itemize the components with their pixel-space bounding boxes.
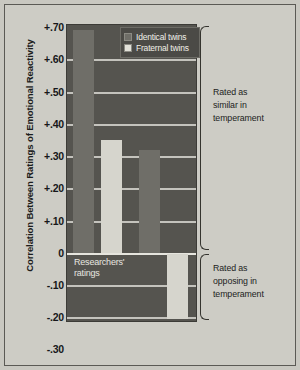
group-label-parents-line1: Parents': [131, 320, 162, 322]
y-tick-040: +.40: [26, 118, 64, 130]
y-tick-neg020: -.20: [26, 311, 64, 323]
group-label-researchers: Researchers' ratings: [74, 257, 124, 280]
group-label-parents: Parents' ratings: [131, 320, 162, 322]
y-tick-020: +.20: [26, 182, 64, 194]
annotation-similar-line1: Rated as: [213, 86, 264, 99]
y-tick-neg010: -.10: [26, 279, 64, 291]
y-axis-tick-labels: +.70 +.60 +.50 +.40 +.30 +.20 +.10 0 -.1…: [26, 0, 64, 370]
annotation-similar-line2: similar in: [213, 99, 264, 112]
legend-label-fraternal: Fraternal twins: [136, 43, 189, 53]
y-tick-070: +.70: [26, 21, 64, 33]
plot-area: Researchers' ratings Parents' ratings: [66, 24, 197, 322]
legend-label-identical: Identical twins: [136, 32, 186, 42]
annotation-opposing: Rated as opposing in temperament: [213, 262, 264, 300]
annotation-opposing-line2: opposing in: [213, 275, 264, 288]
bar-identical-researchers: [73, 30, 94, 253]
legend-swatch-fraternal-icon: [124, 44, 132, 52]
annotation-opposing-line3: temperament: [213, 288, 264, 301]
brace-opposing-icon: [200, 254, 209, 320]
bar-fraternal-researchers: [101, 140, 122, 253]
chart-root: Correlation Between Ratings of Emotional…: [0, 0, 300, 370]
legend-item-fraternal: Fraternal twins: [124, 43, 195, 53]
brace-similar-icon: [200, 26, 209, 250]
legend-swatch-identical-icon: [124, 33, 132, 41]
group-label-researchers-line1: Researchers': [74, 257, 124, 268]
annotation-similar: Rated as similar in temperament: [213, 86, 264, 124]
annotation-opposing-line1: Rated as: [213, 262, 264, 275]
group-label-researchers-line2: ratings: [74, 268, 124, 279]
y-tick-neg030: -.30: [26, 343, 64, 355]
y-tick-030: +.30: [26, 150, 64, 162]
y-tick-010: +.10: [26, 215, 64, 227]
y-tick-060: +.60: [26, 53, 64, 65]
y-tick-000: 0: [26, 247, 64, 259]
y-tick-050: +.50: [26, 86, 64, 98]
annotation-similar-line3: temperament: [213, 112, 264, 125]
legend: Identical twins Fraternal twins: [120, 27, 200, 58]
bar-identical-parents: [139, 150, 160, 253]
bar-fraternal-parents: [167, 254, 188, 319]
legend-item-identical: Identical twins: [124, 32, 195, 42]
